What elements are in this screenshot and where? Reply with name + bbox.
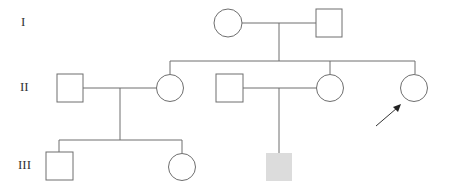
individual-i1-female <box>214 9 242 37</box>
individual-iii3-male-affected <box>266 153 292 181</box>
individual-ii5-female-proband <box>401 75 428 102</box>
individual-ii2-female <box>157 75 184 102</box>
proband-arrow-icon <box>376 104 401 126</box>
individual-iii2-female <box>169 154 196 181</box>
pedigree-diagram <box>0 0 451 190</box>
individual-ii3-male <box>216 74 243 102</box>
individual-iii1-male <box>46 152 73 180</box>
individual-i2-male <box>316 9 342 37</box>
individual-ii1-male <box>57 74 83 102</box>
individual-ii4-female <box>317 75 344 102</box>
